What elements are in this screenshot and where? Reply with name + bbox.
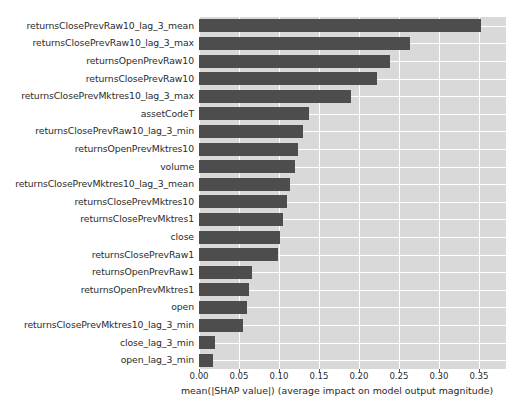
x-axis-tick-mark xyxy=(199,369,200,372)
x-axis-tick-label: 0.15 xyxy=(309,371,328,381)
bar xyxy=(199,19,481,32)
y-axis-tick-label: returnsOpenPrevRaw1 xyxy=(0,266,194,277)
shap-summary-bar-chart: returnsClosePrevRaw10_lag_3_meanreturnsC… xyxy=(0,0,514,413)
bar xyxy=(199,72,377,85)
y-axis-tick-label: volume xyxy=(0,161,194,172)
y-axis-tick-label: returnsClosePrevMktres1 xyxy=(0,213,194,224)
x-axis-tick-mark xyxy=(319,369,320,372)
y-axis-tick-label: returnsOpenPrevMktres10 xyxy=(0,143,194,154)
bar xyxy=(199,319,243,332)
x-axis-title-text: mean(|SHAP value|) (average impact on mo… xyxy=(181,385,493,396)
y-axis-tick-label: returnsClosePrevRaw1 xyxy=(0,249,194,260)
x-axis-tick-label: 0.25 xyxy=(389,371,408,381)
bar xyxy=(199,354,213,367)
bar xyxy=(199,143,298,156)
bar xyxy=(199,248,278,261)
bars-group xyxy=(199,17,506,369)
bar xyxy=(199,231,280,244)
bar xyxy=(199,125,303,138)
x-axis-tick-labels: 0.000.050.100.150.200.250.300.35 xyxy=(0,371,514,385)
y-axis-tick-label: open_lag_3_min xyxy=(0,354,194,365)
y-axis-tick-label: returnsOpenPrevMktres1 xyxy=(0,284,194,295)
bar xyxy=(199,283,249,296)
bar xyxy=(199,213,283,226)
y-axis-tick-label: returnsClosePrevRaw10 xyxy=(0,73,194,84)
plot-area xyxy=(199,17,506,369)
figure-top-margin xyxy=(0,0,514,8)
y-axis-tick-label: close xyxy=(0,231,194,242)
y-axis-tick-label: returnsClosePrevRaw10_lag_3_mean xyxy=(0,20,194,31)
y-axis-tick-label: returnsClosePrevMktres10_lag_3_mean xyxy=(0,178,194,189)
y-axis-tick-label: returnsClosePrevRaw10_lag_3_max xyxy=(0,37,194,48)
bar xyxy=(199,266,252,279)
bar xyxy=(199,160,295,173)
bar xyxy=(199,107,309,120)
x-axis-tick-mark xyxy=(359,369,360,372)
y-axis-tick-label: returnsClosePrevRaw10_lag_3_min xyxy=(0,125,194,136)
x-axis-tick-label: 0.10 xyxy=(269,371,288,381)
y-axis-tick-label: assetCodeT xyxy=(0,108,194,119)
x-axis-tick-label: 0.05 xyxy=(229,371,248,381)
y-axis-tick-label: returnsClosePrevMktres10_lag_3_min xyxy=(0,319,194,330)
x-axis-tick-mark xyxy=(439,369,440,372)
x-axis-title: mean(|SHAP value|) (average impact on mo… xyxy=(0,385,514,396)
y-axis-tick-label: returnsClosePrevMktres10 xyxy=(0,196,194,207)
x-axis-tick-mark xyxy=(399,369,400,372)
y-axis-tick-label: returnsOpenPrevRaw10 xyxy=(0,55,194,66)
bar xyxy=(199,301,247,314)
y-axis-tick-label: open xyxy=(0,301,194,312)
y-axis-tick-label: close_lag_3_min xyxy=(0,337,194,348)
x-axis-tick-mark xyxy=(279,369,280,372)
bar xyxy=(199,37,410,50)
bar xyxy=(199,90,351,103)
x-axis-tick-label: 0.35 xyxy=(469,371,488,381)
x-axis-tick-label: 0.30 xyxy=(429,371,448,381)
x-axis-tick-label: 0.20 xyxy=(349,371,368,381)
bar xyxy=(199,336,215,349)
y-axis-tick-labels: returnsClosePrevRaw10_lag_3_meanreturnsC… xyxy=(0,17,194,369)
bar xyxy=(199,55,390,68)
bar xyxy=(199,195,287,208)
x-axis-tick-mark xyxy=(479,369,480,372)
x-axis-tick-label: 0.00 xyxy=(189,371,208,381)
bar xyxy=(199,178,290,191)
x-axis-tick-mark xyxy=(239,369,240,372)
y-axis-tick-label: returnsClosePrevMktres10_lag_3_max xyxy=(0,90,194,101)
